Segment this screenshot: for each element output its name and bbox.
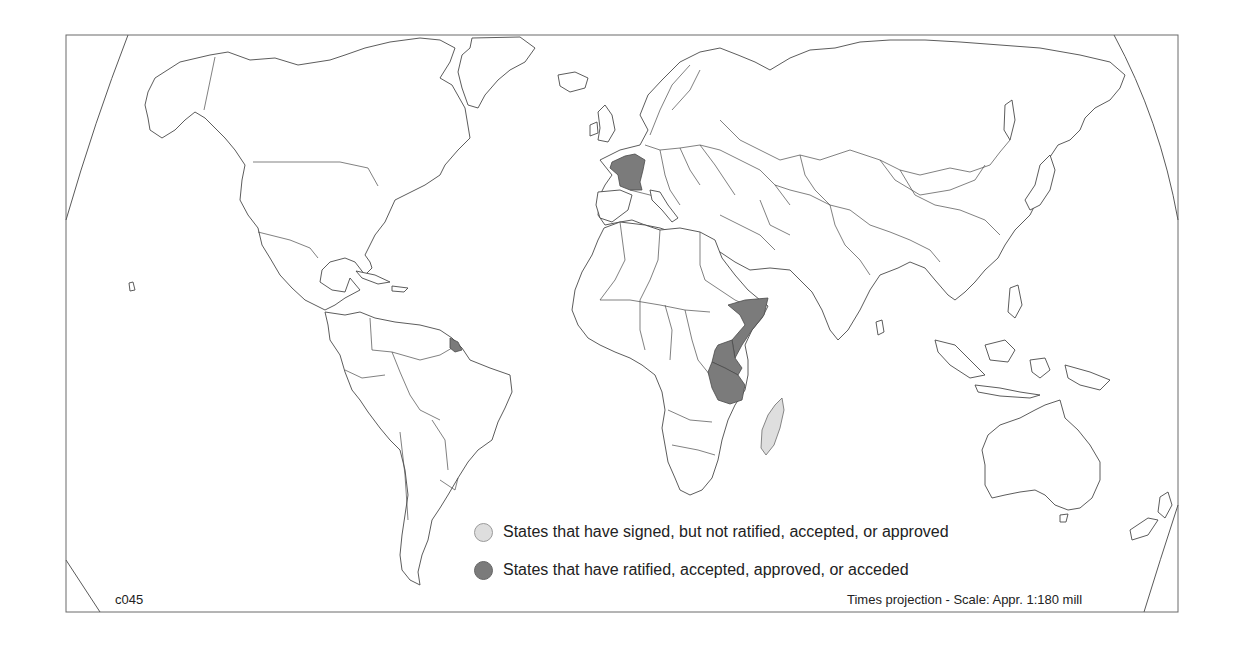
region-french-guiana — [450, 338, 462, 352]
map-legend: States that have signed, but not ratifie… — [474, 513, 949, 589]
iceland — [558, 72, 588, 92]
legend-label-ratified: States that have ratified, accepted, app… — [503, 561, 909, 579]
region-madagascar — [761, 398, 784, 455]
tasmania — [1060, 514, 1068, 522]
projection-scale-note: Times projection - Scale: Appr. 1:180 mi… — [847, 592, 1082, 607]
legend-label-signed: States that have signed, but not ratifie… — [503, 523, 949, 541]
legend-swatch-signed-icon — [474, 523, 493, 542]
new-zealand — [1158, 492, 1172, 518]
australia-mainland — [982, 400, 1100, 510]
projection-edge-right — [1114, 35, 1178, 220]
greenland — [458, 37, 535, 108]
australia — [982, 400, 1172, 540]
map-code: c045 — [115, 592, 143, 607]
legend-item-signed: States that have signed, but not ratifie… — [474, 513, 949, 551]
legend-swatch-ratified-icon — [474, 561, 493, 580]
north-america — [129, 37, 588, 310]
legend-item-ratified: States that have ratified, accepted, app… — [474, 551, 949, 589]
united-kingdom — [598, 105, 615, 142]
projection-edge-left-bottom — [66, 560, 100, 612]
southeast-asia — [935, 340, 1110, 398]
ireland — [590, 122, 598, 136]
projection-edge-left — [66, 35, 128, 220]
